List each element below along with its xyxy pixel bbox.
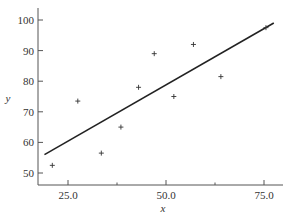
x-tick-label: 75.0 <box>254 189 274 201</box>
data-point-marker <box>152 51 157 56</box>
x-tick-label: 50.0 <box>156 189 176 201</box>
data-points <box>50 25 269 168</box>
y-tick-label: 100 <box>18 14 35 26</box>
y-tick-label: 50 <box>23 167 35 179</box>
data-point-marker <box>218 74 223 79</box>
regression-line <box>44 23 273 155</box>
x-tick-label: 25.0 <box>58 189 78 201</box>
y-tick-label: 70 <box>23 106 35 118</box>
y-tick-label: 80 <box>23 75 35 87</box>
data-point-marker <box>118 125 123 130</box>
data-point-marker <box>75 99 80 104</box>
y-tick-label: 60 <box>23 136 35 148</box>
fit-line <box>44 23 273 155</box>
y-tick-label: 90 <box>23 45 35 57</box>
data-point-marker <box>191 42 196 47</box>
scatter-chart: 506070809010025.050.075.0 x y <box>0 0 293 219</box>
axes: 506070809010025.050.075.0 <box>18 8 284 201</box>
data-point-marker <box>136 85 141 90</box>
data-point-marker <box>99 151 104 156</box>
x-axis-title: x <box>160 202 166 214</box>
data-point-marker <box>171 94 176 99</box>
data-point-marker <box>50 163 55 168</box>
y-axis-title: y <box>5 92 11 104</box>
